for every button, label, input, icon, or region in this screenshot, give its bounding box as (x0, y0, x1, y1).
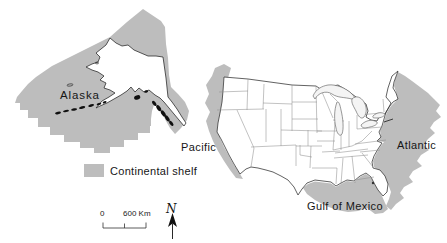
map-svg: Alaska Pacific Atlantic Gulf of Mexico C… (0, 0, 447, 243)
north-arrow-letter: N (165, 202, 177, 216)
continental-shelf-map-figure: Alaska Pacific Atlantic Gulf of Mexico C… (0, 0, 447, 243)
alaska-inset (15, 9, 189, 153)
pacific-label: Pacific (181, 141, 216, 153)
gulf-of-mexico-label: Gulf of Mexico (307, 200, 383, 212)
atlantic-label: Atlantic (397, 139, 436, 151)
scale-bar: 0 600 Km (100, 209, 151, 228)
legend-shelf-swatch (84, 164, 104, 177)
scale-bar-line (103, 223, 146, 229)
lake-okeechobee (372, 182, 374, 184)
alaska-label: Alaska (60, 89, 100, 101)
legend-shelf-label: Continental shelf (110, 165, 198, 177)
legend: Continental shelf (84, 164, 198, 177)
scale-start-label: 0 (100, 209, 105, 218)
north-arrow: N (165, 202, 177, 239)
scale-distance-label: 600 Km (123, 209, 151, 218)
